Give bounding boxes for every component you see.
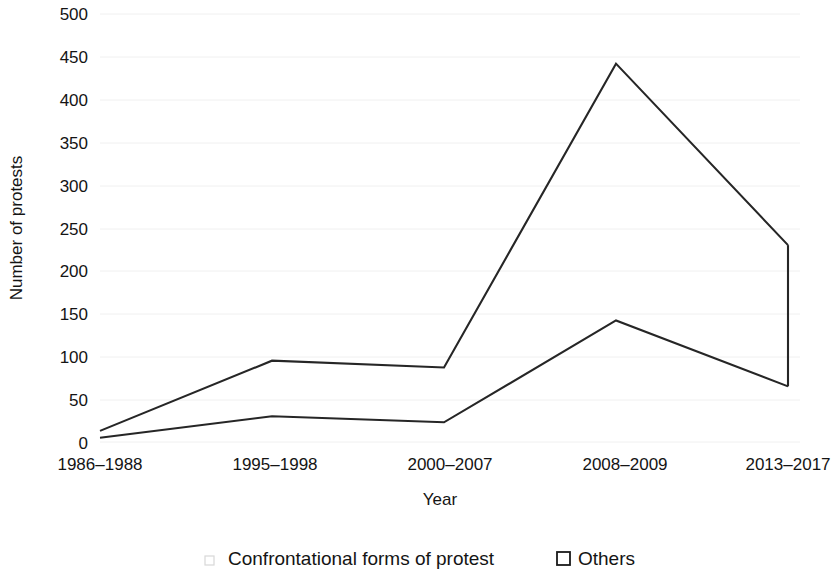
x-tick-label: 2013–2017 [745,455,830,474]
x-axis-title: Year [423,490,458,509]
legend-line-marker-icon [205,556,214,565]
y-tick-label: 500 [60,5,88,24]
legend: Confrontational forms of protest Others [205,548,635,569]
y-tick-label: 150 [60,305,88,324]
open-square-icon [557,552,570,565]
y-tick-label: 350 [60,134,88,153]
legend-label-others[interactable]: Others [578,548,635,569]
y-tick-label: 250 [60,220,88,239]
y-tick-label: 200 [60,262,88,281]
series-line-confrontational [100,64,788,431]
y-tick-label: 0 [79,434,88,453]
y-axis-ticks: 500 450 400 350 300 250 200 150 100 50 0 [60,5,88,453]
y-tick-label: 300 [60,177,88,196]
x-tick-label: 2000–2007 [407,455,492,474]
protest-line-chart: 500 450 400 350 300 250 200 150 100 50 0… [0,0,839,578]
y-tick-label: 450 [60,48,88,67]
x-tick-label: 2008–2009 [582,455,667,474]
x-axis-ticks: 1986–1988 1995–1998 2000–2007 2008–2009 … [57,455,830,474]
legend-label-confrontational[interactable]: Confrontational forms of protest [228,548,495,569]
gridlines [100,14,800,442]
y-tick-label: 400 [60,91,88,110]
series-line-others [100,320,788,437]
y-tick-label: 50 [69,391,88,410]
y-axis-title: Number of protests [7,156,26,301]
x-tick-label: 1995–1998 [232,455,317,474]
y-tick-label: 100 [60,348,88,367]
x-tick-label: 1986–1988 [57,455,142,474]
